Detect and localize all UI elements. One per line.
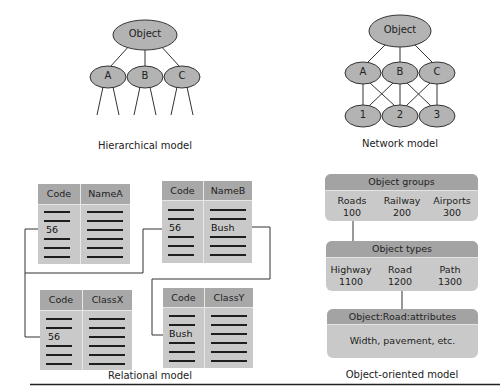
table-class-y: Code ClassY Bush [163, 288, 253, 368]
table-second-value: Bush [211, 222, 235, 233]
hier-node-b-label: B [142, 70, 149, 81]
oo-group-item: Airports 300 [433, 195, 470, 219]
table-name-b: Code NameB 56 Bush [162, 181, 252, 263]
net-node-c-label: C [434, 66, 441, 77]
table-name-a: Code NameA 56 [38, 184, 130, 264]
oo-item-code: 300 [433, 207, 470, 219]
table-key-value: Bush [169, 328, 193, 339]
oo-type-item: Road 1200 [388, 264, 412, 288]
table-header-class: ClassX [83, 294, 132, 305]
oo-type-item: Path 1300 [438, 264, 462, 288]
oo-attributes-text: Width, pavement, etc. [327, 335, 478, 346]
table-header-code: Code [163, 292, 204, 303]
relational-caption: Relational model [108, 370, 192, 381]
oo-object-types: Object types Highway 1100 Road 1200 Path… [326, 241, 478, 291]
hier-node-c-label: C [179, 70, 186, 81]
oo-item-code: 100 [338, 207, 367, 219]
net-node-1-label: 1 [360, 109, 366, 120]
hierarchical-caption: Hierarchical model [98, 140, 192, 151]
oo-item-code: 1200 [388, 276, 412, 288]
table-key-value: 56 [46, 224, 58, 235]
table-header-code: Code [38, 188, 80, 199]
net-node-b-label: B [397, 66, 404, 77]
table-header-code: Code [40, 294, 82, 305]
hier-root-label: Object [129, 28, 162, 39]
oo-item-name: Airports [433, 195, 470, 207]
oo-item-name: Road [388, 264, 412, 276]
oo-type-item: Highway 1100 [330, 264, 371, 288]
oo-item-code: 200 [384, 207, 421, 219]
oo-types-title: Object types [326, 241, 478, 258]
oo-item-code: 1100 [330, 276, 371, 288]
oo-attributes-title: Object:Road:attributes [327, 309, 478, 325]
oo-item-name: Roads [338, 195, 367, 207]
table-key-value: 56 [48, 331, 60, 342]
oo-item-name: Path [438, 264, 462, 276]
oo-group-item: Railway 200 [384, 195, 421, 219]
oo-item-code: 1300 [438, 276, 462, 288]
net-node-a-label: A [360, 66, 367, 77]
oo-item-name: Highway [330, 264, 371, 276]
net-node-2-label: 2 [397, 109, 403, 120]
table-header-name: NameB [204, 185, 252, 196]
oo-group-item: Roads 100 [338, 195, 367, 219]
table-key-value: 56 [169, 222, 181, 233]
network-caption: Network model [362, 138, 438, 149]
table-header-name: NameA [81, 188, 130, 199]
object-oriented-caption: Object-oriented model [346, 369, 459, 380]
table-class-x: Code ClassX 56 [40, 290, 132, 370]
oo-road-attributes: Object:Road:attributes Width, pavement, … [327, 309, 478, 358]
net-node-3-label: 3 [434, 109, 440, 120]
hier-node-a-label: A [105, 70, 112, 81]
net-root-label: Object [384, 24, 417, 35]
oo-object-groups: Object groups Roads 100 Railway 200 Airp… [325, 174, 478, 221]
table-header-class: ClassY [205, 292, 253, 303]
oo-item-name: Railway [384, 195, 421, 207]
table-header-code: Code [162, 185, 203, 196]
oo-groups-title: Object groups [325, 174, 478, 191]
